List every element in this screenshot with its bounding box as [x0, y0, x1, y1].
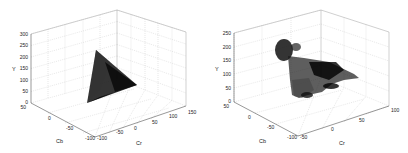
svg-text:50: 50 [223, 103, 229, 109]
plot-1-cb-axis [31, 103, 95, 137]
svg-text:-50: -50 [267, 124, 274, 130]
svg-text:300: 300 [20, 31, 29, 37]
plot-2-canvas: 250 200 150 100 50 0 Y 50 0 -50 -100 Cb … [204, 0, 408, 153]
svg-text:50: 50 [225, 85, 231, 91]
svg-text:0: 0 [248, 114, 251, 120]
plot-1-cr-axis [95, 106, 186, 137]
svg-text:200: 200 [223, 44, 232, 50]
svg-text:100: 100 [20, 77, 29, 83]
plot-1-z-ticks: 300 250 200 150 100 50 0 [20, 31, 29, 106]
svg-text:-100: -100 [97, 135, 107, 141]
svg-text:0: 0 [331, 126, 334, 132]
svg-text:-50: -50 [116, 129, 123, 135]
scatter3d-plot-1: 300 250 200 150 100 50 0 Y 50 0 -50 -100… [0, 0, 204, 153]
svg-text:200: 200 [20, 54, 29, 60]
plot-2-cb-ticks: 50 0 -50 -100 [223, 103, 297, 140]
plot-1-cr-label: Cr [136, 140, 142, 146]
plot-2-cr-label: Cr [339, 140, 345, 146]
svg-text:150: 150 [188, 109, 197, 115]
svg-text:50: 50 [20, 104, 26, 110]
svg-text:50: 50 [152, 119, 158, 125]
plot-2-z-label: Y [215, 66, 219, 72]
svg-text:100: 100 [391, 107, 400, 113]
plot-2-z-ticks: 250 200 150 100 50 0 [223, 30, 232, 105]
svg-text:150: 150 [223, 57, 232, 63]
plot-1-z-label: Y [12, 66, 16, 72]
svg-text:100: 100 [223, 71, 232, 77]
scatter3d-plot-2: 250 200 150 100 50 0 Y 50 0 -50 -100 Cb … [204, 0, 408, 153]
plot-1-top-back-edge [31, 10, 186, 34]
svg-text:-50: -50 [66, 125, 73, 131]
svg-text:50: 50 [22, 88, 28, 94]
svg-text:250: 250 [20, 42, 29, 48]
plot-2-cb-axis [234, 102, 298, 136]
svg-text:50: 50 [359, 117, 365, 123]
plot-1-canvas: 300 250 200 150 100 50 0 Y 50 0 -50 -100… [0, 0, 204, 153]
svg-text:0: 0 [48, 115, 51, 121]
svg-text:-50: -50 [300, 134, 307, 140]
svg-text:-100: -100 [85, 135, 95, 141]
svg-text:-100: -100 [287, 134, 297, 140]
plot-2-point-cloud [275, 39, 359, 98]
plot-2-cr-axis [298, 106, 389, 136]
plot-2-top-back-edge [234, 10, 389, 33]
svg-text:0: 0 [134, 125, 137, 131]
svg-text:100: 100 [169, 113, 178, 119]
svg-text:250: 250 [223, 30, 232, 36]
plot-2-cb-label: Cb [259, 138, 266, 144]
plot-1-cb-ticks: 50 0 -50 -100 [20, 104, 95, 141]
plot-1-cb-label: Cb [56, 138, 63, 144]
plot-1-cr-ticks: -100 -50 0 50 100 150 [97, 109, 197, 141]
plot-2-cr-ticks: -50 0 50 100 [300, 107, 400, 140]
svg-text:150: 150 [20, 65, 29, 71]
